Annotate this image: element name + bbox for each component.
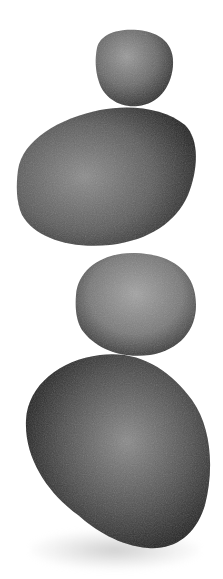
stone-bottom (26, 354, 210, 548)
stone-stack (0, 0, 223, 579)
stone-third (76, 253, 196, 356)
stone-second (17, 107, 196, 245)
stone-top (96, 30, 173, 107)
photo-canvas (0, 0, 223, 579)
